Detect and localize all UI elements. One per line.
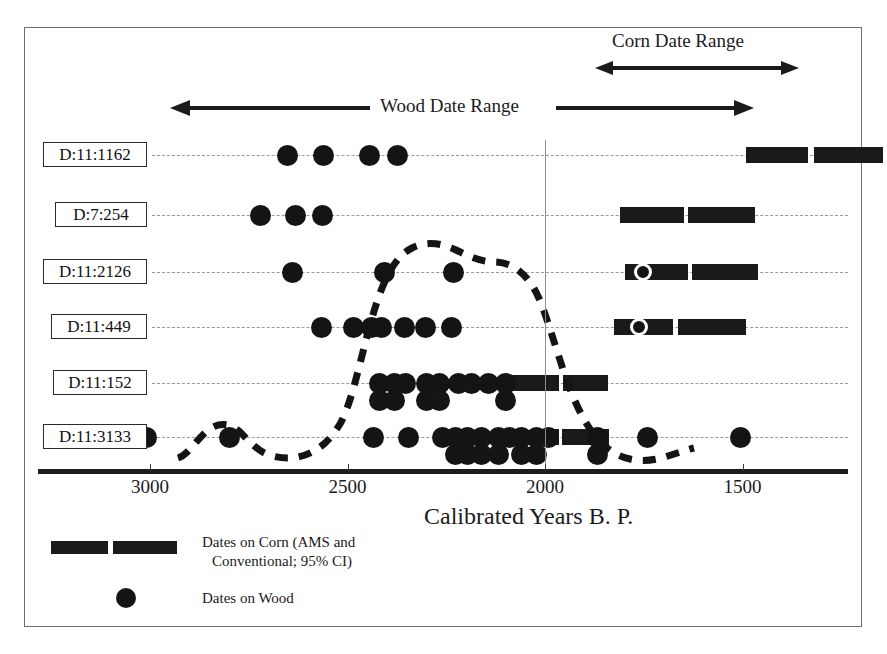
legend-wood-swatch [116, 588, 136, 608]
x-axis-tick [150, 464, 151, 471]
x-axis-tick [743, 464, 744, 471]
legend-wood-label: Dates on Wood [202, 589, 294, 608]
x-axis-tick [348, 464, 349, 471]
x-axis-tick-label: 3000 [110, 476, 190, 498]
x-axis-tick [545, 464, 546, 471]
legend-corn-swatch-a [51, 541, 108, 554]
x-axis-tick-label: 2000 [505, 476, 585, 498]
x-axis-tick-label: 1500 [703, 476, 783, 498]
x-axis-tick-label: 2500 [308, 476, 388, 498]
legend-corn-swatch-b [113, 541, 177, 554]
legend-corn-label-line2: Conventional; 95% CI) [212, 552, 352, 571]
x-axis-title: Calibrated Years B. P. [424, 503, 633, 530]
chart-figure: D:11:1162D:7:254D:11:2126D:11:449D:11:15… [0, 0, 887, 654]
x-axis-ticks: 3000250020001500 [0, 0, 887, 654]
legend-corn-label-line1: Dates on Corn (AMS and [202, 533, 355, 552]
